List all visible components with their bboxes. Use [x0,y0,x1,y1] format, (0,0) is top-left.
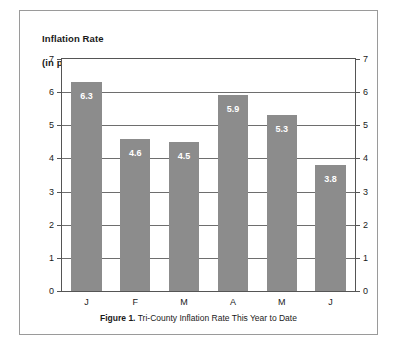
bar-value-label: 4.5 [169,151,199,161]
y-axis-left-label: 6 [49,88,54,97]
y-axis-right-label: 2 [363,220,368,229]
y-axis-right-tick [356,291,360,292]
y-axis-right-label: 5 [363,121,368,130]
y-axis-left-tick [57,158,61,159]
bar: 4.6 [120,139,150,291]
bar: 5.3 [267,115,297,291]
figure-caption-text: Tri-County Inflation Rate This Year to D… [138,313,297,323]
y-axis-right-tick [356,125,360,126]
bar-group: 5.3M [267,59,297,291]
y-axis-right-tick [356,59,360,60]
y-axis-left-tick [57,258,61,259]
bar-value-label: 3.8 [315,174,345,184]
y-axis-right-label: 6 [363,88,368,97]
y-axis-left-tick [57,291,61,292]
y-axis-right-label: 3 [363,187,368,196]
y-axis-left-label: 7 [49,55,54,64]
y-axis-left-tick [57,59,61,60]
bar: 5.9 [218,95,248,291]
chart-axis-title-line1: Inflation Rate [42,33,104,45]
bar: 4.5 [169,142,199,291]
x-axis-label: F [120,297,150,307]
y-axis-left-label: 5 [49,121,54,130]
y-axis-left-label: 3 [49,187,54,196]
x-axis-label: M [169,297,199,307]
y-axis-left-label: 0 [49,287,54,296]
x-axis-label: J [315,297,345,307]
y-axis-right-tick [356,158,360,159]
y-axis-left-tick [57,192,61,193]
x-axis-label: M [267,297,297,307]
bars-layer: 6.3J4.6F4.5M5.9A5.3M3.8J [62,59,355,291]
plot-area: 01234567 01234567 6.3J4.6F4.5M5.9A5.3M3.… [61,58,356,292]
bar-value-label: 6.3 [71,91,101,101]
bar-group: 6.3J [71,59,101,291]
y-axis-left-label: 1 [49,253,54,262]
y-axis-right-tick [356,225,360,226]
y-axis-left-tick [57,92,61,93]
bar-group: 5.9A [218,59,248,291]
y-axis-left-label: 4 [49,154,54,163]
x-axis-label: J [71,297,101,307]
bar: 3.8 [315,165,345,291]
bar-group: 4.5M [169,59,199,291]
y-axis-right-tick [356,258,360,259]
y-axis-left-tick [57,225,61,226]
figure-caption: Figure 1. Tri-County Inflation Rate This… [20,313,377,323]
y-axis-right-label: 4 [363,154,368,163]
bar-value-label: 5.9 [218,104,248,114]
y-axis-right-label: 1 [363,253,368,262]
x-axis-label: A [218,297,248,307]
y-axis-left-label: 2 [49,220,54,229]
bar-group: 4.6F [120,59,150,291]
bar-value-label: 4.6 [120,148,150,158]
y-axis-right-label: 7 [363,55,368,64]
y-axis-right-tick [356,92,360,93]
bar-group: 3.8J [315,59,345,291]
bar-value-label: 5.3 [267,124,297,134]
figure-frame: Inflation Rate (in percent) 01234567 012… [19,10,378,335]
bar: 6.3 [71,82,101,291]
y-axis-right-tick [356,192,360,193]
y-axis-right-label: 0 [363,287,368,296]
y-axis-left-tick [57,125,61,126]
figure-caption-label: Figure 1. [100,313,135,323]
